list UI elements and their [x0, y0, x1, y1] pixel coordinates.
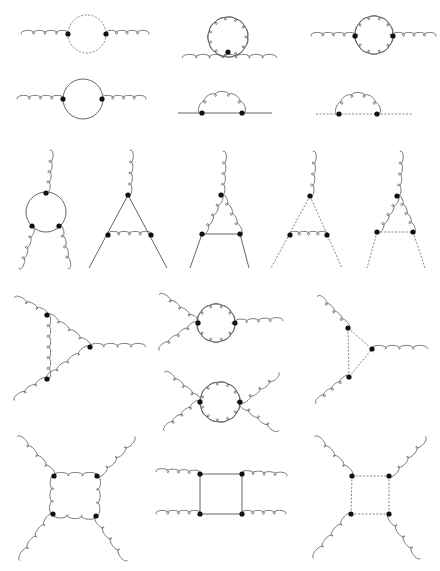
vertex-dot [225, 49, 230, 54]
vertex-dot [352, 33, 357, 38]
vertex-dot [94, 473, 99, 478]
vertex-dot [324, 232, 329, 237]
vertex-dot [239, 110, 244, 115]
vertex-dot [93, 513, 98, 518]
vertex-dot [239, 511, 244, 516]
vertex-dot [43, 190, 48, 195]
vertex-dot [87, 344, 92, 349]
vertex-dot [348, 511, 353, 516]
vertex-dot [386, 511, 391, 516]
vertex-dot [199, 231, 204, 236]
vertex-dot [394, 193, 399, 198]
vertex-dot [346, 374, 351, 379]
vertex-dot [50, 511, 55, 516]
vertex-dot [103, 31, 108, 36]
background [0, 0, 440, 571]
vertex-dot [51, 473, 56, 478]
vertex-dot [197, 511, 202, 516]
vertex-dot [218, 192, 223, 197]
vertex-dot [239, 471, 244, 476]
vertex-dot [410, 229, 415, 234]
vertex-dot [197, 399, 202, 404]
feynman-diagram-figure: One-loop QCD Feynman diagrams [0, 0, 440, 571]
vertex-dot [65, 31, 70, 36]
vertex-dot [44, 312, 49, 317]
vertex-dot [336, 111, 341, 116]
vertex-dot [195, 320, 200, 325]
vertex-dot [369, 346, 374, 351]
vertex-dot [349, 473, 354, 478]
vertex-dot [56, 223, 61, 228]
vertex-dot [60, 96, 65, 101]
vertex-dot [374, 229, 379, 234]
vertex-dot [199, 110, 204, 115]
vertex-dot [148, 232, 153, 237]
vertex-dot [345, 325, 350, 330]
vertex-dot [197, 471, 202, 476]
vertex-dot [390, 33, 395, 38]
vertex-dot [99, 96, 104, 101]
vertex-dot [287, 232, 292, 237]
vertex-dot [44, 376, 49, 381]
vertex-dot [29, 223, 34, 228]
vertex-dot [232, 320, 237, 325]
vertex-dot [105, 232, 110, 237]
vertex-dot [374, 111, 379, 116]
vertex-dot [237, 231, 242, 236]
vertex-dot [125, 192, 130, 197]
vertex-dot [237, 399, 242, 404]
vertex-dot [386, 473, 391, 478]
vertex-dot [307, 193, 312, 198]
